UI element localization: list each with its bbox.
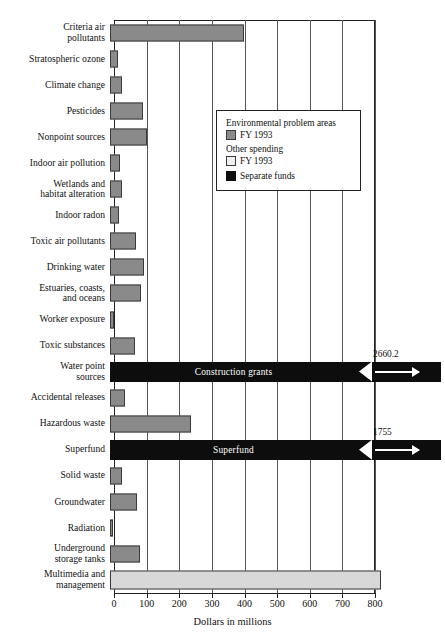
category-label: Groundwater bbox=[0, 497, 110, 508]
problem-area-bar bbox=[110, 311, 114, 328]
category-label: Drinking water bbox=[0, 262, 110, 273]
bar-track bbox=[110, 20, 445, 46]
problem-area-bar bbox=[110, 233, 136, 250]
problem-area-bar bbox=[110, 415, 191, 432]
category-label: Superfund bbox=[0, 444, 110, 455]
separate-fund-inline-label: Construction grants bbox=[110, 362, 357, 382]
category-label: Indoor air pollution bbox=[0, 158, 110, 169]
bar-rows: Criteria airpollutantsStratospheric ozon… bbox=[0, 20, 445, 593]
legend-swatch-separate bbox=[226, 171, 236, 181]
problem-area-bar bbox=[110, 207, 119, 224]
bar-track bbox=[110, 72, 445, 98]
bar-row: Toxic air pollutants bbox=[0, 228, 445, 254]
legend-label-problem-fy1993: FY 1993 bbox=[240, 130, 272, 140]
category-label: Climate change bbox=[0, 80, 110, 91]
problem-area-bar bbox=[110, 51, 118, 68]
category-label: Worker exposure bbox=[0, 314, 110, 325]
bar-track bbox=[110, 202, 445, 228]
bar-row: Undergroundstorage tanks bbox=[0, 541, 445, 567]
bar-track bbox=[110, 254, 445, 280]
problem-area-bar bbox=[110, 337, 135, 354]
bar-track: Construction grants2660.2 bbox=[110, 359, 445, 385]
category-label: Nonpoint sources bbox=[0, 132, 110, 143]
other-spending-bar bbox=[110, 570, 381, 589]
bar-row: Groundwater bbox=[0, 489, 445, 515]
legend-item-other-fy1993: FY 1993 bbox=[226, 156, 352, 166]
overflow-arrow-icon bbox=[375, 371, 419, 373]
tick-label-500: 500 bbox=[270, 598, 285, 609]
category-label: Toxic air pollutants bbox=[0, 236, 110, 247]
bar-row: Drinking water bbox=[0, 254, 445, 280]
problem-area-bar bbox=[110, 129, 147, 146]
x-axis-title: Dollars in millions bbox=[0, 616, 445, 627]
bar-chart: Criteria airpollutantsStratospheric ozon… bbox=[0, 0, 445, 637]
legend-title-problem-areas: Environmental problem areas bbox=[226, 118, 352, 128]
bar-row: Solid waste bbox=[0, 463, 445, 489]
problem-area-bar bbox=[110, 545, 140, 562]
separate-fund-bar: Superfund1755 bbox=[110, 440, 441, 460]
legend-item-separate-funds: Separate funds bbox=[226, 171, 352, 181]
bar-track bbox=[110, 280, 445, 306]
category-label: Stratospheric ozone bbox=[0, 54, 110, 65]
category-label: Multimedia andmanagement bbox=[0, 569, 110, 590]
bar-row: Climate change bbox=[0, 72, 445, 98]
category-label: Criteria airpollutants bbox=[0, 22, 110, 43]
problem-area-bar bbox=[110, 493, 137, 510]
category-label: Hazardous waste bbox=[0, 418, 110, 429]
bar-row: Criteria airpollutants bbox=[0, 20, 445, 46]
bar-track: Superfund1755 bbox=[110, 437, 445, 463]
bar-row: Stratospheric ozone bbox=[0, 46, 445, 72]
tick-label-700: 700 bbox=[335, 598, 350, 609]
legend-swatch-other bbox=[226, 156, 236, 166]
bar-track bbox=[110, 385, 445, 411]
problem-area-bar bbox=[110, 259, 144, 276]
category-label: Radiation bbox=[0, 523, 110, 534]
bar-row: Estuaries, coasts,and oceans bbox=[0, 280, 445, 306]
category-label: Toxic substances bbox=[0, 340, 110, 351]
category-label: Indoor radon bbox=[0, 210, 110, 221]
category-label: Solid waste bbox=[0, 470, 110, 481]
tick-label-300: 300 bbox=[204, 598, 219, 609]
category-label: Accidental releases bbox=[0, 392, 110, 403]
legend: Environmental problem areas FY 1993 Othe… bbox=[216, 110, 361, 191]
problem-area-bar bbox=[110, 25, 244, 42]
bar-row: Worker exposure bbox=[0, 307, 445, 333]
tick-label-400: 400 bbox=[237, 598, 252, 609]
bar-track bbox=[110, 515, 445, 541]
bar-track bbox=[110, 463, 445, 489]
legend-title-other-spending: Other spending bbox=[226, 144, 352, 154]
bar-row: Indoor radon bbox=[0, 202, 445, 228]
problem-area-bar bbox=[110, 77, 122, 94]
problem-area-bar bbox=[110, 103, 143, 120]
bar-track bbox=[110, 567, 445, 593]
category-label: Undergroundstorage tanks bbox=[0, 543, 110, 564]
problem-area-bar bbox=[110, 181, 122, 198]
problem-area-bar bbox=[110, 155, 120, 172]
bar-track bbox=[110, 307, 445, 333]
legend-label-separate-funds: Separate funds bbox=[240, 171, 295, 181]
tick-label-600: 600 bbox=[302, 598, 317, 609]
bar-track bbox=[110, 46, 445, 72]
tick-label-800: 800 bbox=[368, 598, 383, 609]
category-label: Pesticides bbox=[0, 106, 110, 117]
x-axis-ticks: 0100200300400500600700800 bbox=[0, 593, 445, 609]
separate-fund-bar: Construction grants2660.2 bbox=[110, 362, 441, 382]
bar-row: Water pointsourcesConstruction grants266… bbox=[0, 359, 445, 385]
separate-fund-inline-label: Superfund bbox=[110, 440, 357, 460]
problem-area-bar bbox=[110, 519, 113, 536]
bar-track bbox=[110, 411, 445, 437]
bar-row: SuperfundSuperfund1755 bbox=[0, 437, 445, 463]
overflow-arrow-icon bbox=[375, 449, 419, 451]
bar-row: Accidental releases bbox=[0, 385, 445, 411]
legend-item-problem-fy1993: FY 1993 bbox=[226, 130, 352, 140]
problem-area-bar bbox=[110, 467, 122, 484]
legend-swatch-problem bbox=[226, 130, 236, 140]
legend-label-other-fy1993: FY 1993 bbox=[240, 156, 272, 166]
tick-label-0: 0 bbox=[112, 598, 117, 609]
tick-label-200: 200 bbox=[172, 598, 187, 609]
bar-track bbox=[110, 489, 445, 515]
bar-row: Radiation bbox=[0, 515, 445, 541]
tick-label-100: 100 bbox=[139, 598, 154, 609]
bar-track bbox=[110, 541, 445, 567]
problem-area-bar bbox=[110, 285, 141, 302]
